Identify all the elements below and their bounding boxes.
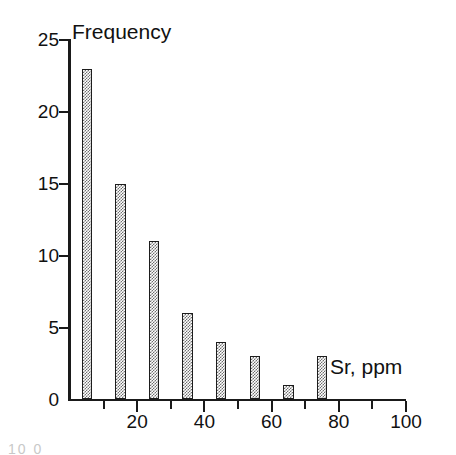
x-axis-tick-label: 60 <box>242 412 302 431</box>
x-axis-minor-tick <box>304 401 306 409</box>
histogram-bar <box>149 241 160 399</box>
y-axis-line <box>68 39 71 401</box>
y-axis-tick <box>59 327 68 329</box>
x-axis-tick-label: 80 <box>309 412 369 431</box>
y-axis-tick <box>59 183 68 185</box>
x-axis-minor-tick <box>371 401 373 409</box>
histogram-figure: Frequency Sr, ppm 0510152025 20406080100… <box>0 0 456 455</box>
y-axis-tick <box>59 39 68 41</box>
y-axis-tick <box>59 111 68 113</box>
y-axis-tick-label: 25 <box>23 30 59 49</box>
histogram-bar <box>182 313 193 399</box>
x-axis-title: Sr, ppm <box>330 355 402 379</box>
histogram-bar <box>115 184 126 400</box>
histogram-bar <box>250 356 261 399</box>
histogram-bar <box>283 385 294 399</box>
y-axis-tick <box>59 255 68 257</box>
histogram-bar <box>317 356 328 399</box>
histogram-bar <box>216 342 227 400</box>
x-axis-minor-tick <box>103 401 105 409</box>
y-axis-title: Frequency <box>72 20 171 44</box>
x-axis-minor-tick <box>170 401 172 409</box>
bottom-caption-fragment: 10 0 <box>8 441 43 454</box>
x-axis-minor-tick <box>237 401 239 409</box>
y-axis-tick-label: 20 <box>23 102 59 121</box>
x-axis-tick-label: 40 <box>174 412 234 431</box>
x-axis-tick-label: 100 <box>376 412 436 431</box>
y-axis-tick-label: 10 <box>23 246 59 265</box>
y-axis-tick-label: 15 <box>23 174 59 193</box>
histogram-bar <box>82 69 93 400</box>
y-axis-tick-label: 0 <box>23 390 59 409</box>
x-axis-tick-label: 20 <box>107 412 167 431</box>
y-axis-tick-label: 5 <box>23 318 59 337</box>
